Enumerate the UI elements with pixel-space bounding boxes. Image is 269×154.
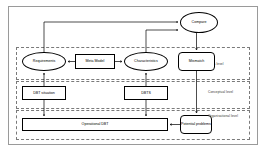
diagram-canvas: Compare Requirements Meta Model Characte…: [0, 0, 269, 154]
node-meta-model[interactable]: Meta Model: [75, 54, 115, 69]
level-label-conceptual: Conceptual level: [208, 90, 233, 94]
node-operational-dbt[interactable]: Operational DBT: [22, 118, 168, 131]
node-mismatch[interactable]: Mismatch: [178, 52, 215, 71]
node-dbts[interactable]: DBTS: [124, 86, 168, 100]
level-label-organisational: Organisational level: [208, 114, 238, 118]
node-potential-problems[interactable]: Potential problems: [180, 115, 212, 134]
node-requirements[interactable]: Requirements: [22, 52, 66, 71]
node-compare[interactable]: Compare: [180, 12, 218, 33]
node-characteristics[interactable]: Characteristics: [124, 52, 168, 71]
node-dbt-situation[interactable]: DBT situation: [22, 86, 66, 100]
